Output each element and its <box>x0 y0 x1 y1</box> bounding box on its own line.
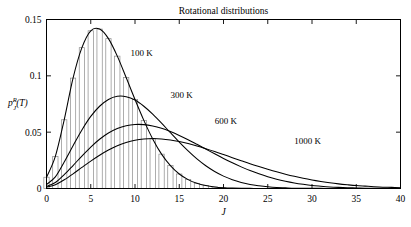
histogram-bar <box>168 166 173 189</box>
y-axis-label: pRJ(T) <box>7 96 28 111</box>
x-tick-label: 25 <box>263 194 273 204</box>
histogram-bar <box>141 120 146 188</box>
x-tick-label: 40 <box>396 194 406 204</box>
x-tick-label: 35 <box>352 194 362 204</box>
x-tick-label: 5 <box>88 194 93 204</box>
x-tick-label: 20 <box>219 194 229 204</box>
histogram-bar <box>159 154 164 188</box>
x-tick-label: 15 <box>175 194 185 204</box>
histogram-bar <box>132 99 137 188</box>
curve-300k <box>47 96 401 188</box>
curve-100k <box>47 28 401 188</box>
x-tick-label: 30 <box>307 194 317 204</box>
histogram-bar <box>124 78 129 189</box>
histogram-bar <box>115 56 120 188</box>
figure-container: 051015202530354000.050.10.15Rotational d… <box>0 0 411 227</box>
y-tick-label: 0.05 <box>25 128 42 138</box>
curve-annotation: 100 K <box>131 48 154 58</box>
histogram-bar <box>150 139 155 189</box>
y-tick-label: 0.15 <box>25 15 42 25</box>
curve-annotation: 600 K <box>215 116 238 126</box>
histogram-bar <box>106 39 111 189</box>
y-tick-label: 0 <box>37 184 42 194</box>
x-tick-label: 0 <box>44 194 49 204</box>
x-tick-label: 10 <box>130 194 140 204</box>
x-axis-label: J <box>221 207 226 217</box>
y-tick-label: 0.1 <box>30 71 42 81</box>
curve-600k <box>47 124 401 188</box>
curve-1000k <box>47 139 401 188</box>
curve-annotation: 1000 K <box>294 136 321 146</box>
rotational-distributions-chart: 051015202530354000.050.10.15Rotational d… <box>0 0 411 227</box>
chart-title: Rotational distributions <box>179 6 269 16</box>
histogram-bar <box>88 31 93 189</box>
curve-annotation: 300 K <box>170 90 193 100</box>
plot-frame <box>47 20 401 189</box>
